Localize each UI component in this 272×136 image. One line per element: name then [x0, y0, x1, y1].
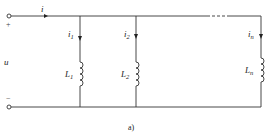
inductor-n-icon	[261, 58, 264, 82]
branch-2-current-arrow-icon	[134, 34, 138, 39]
branch-1-current-arrow-icon	[78, 36, 82, 41]
branch-n-current-arrow-icon	[259, 34, 263, 39]
branch-n	[259, 16, 264, 107]
branch-2-current-label: i2	[124, 30, 130, 41]
plus-sign: +	[6, 21, 11, 29]
circuit-diagram	[0, 0, 272, 136]
voltage-label: u	[4, 58, 9, 67]
branch-1-current-label: i1	[68, 30, 74, 41]
inductor-2-icon	[136, 62, 139, 86]
branch-1-inductor-label: L1	[65, 70, 73, 81]
branch-2-inductor-label: L2	[121, 70, 129, 81]
inductor-1-icon	[80, 62, 83, 86]
branch-n-current-label: in	[248, 30, 254, 41]
terminal-bottom	[7, 105, 11, 109]
minus-sign: −	[6, 95, 11, 103]
figure-caption: a)	[128, 124, 134, 132]
terminal-top	[7, 14, 11, 18]
branch-n-inductor-label: Ln	[245, 66, 253, 77]
main-current-arrow-icon	[44, 14, 48, 18]
main-current-label: i	[41, 5, 44, 14]
branch-2	[134, 16, 139, 107]
branch-1	[78, 16, 83, 107]
